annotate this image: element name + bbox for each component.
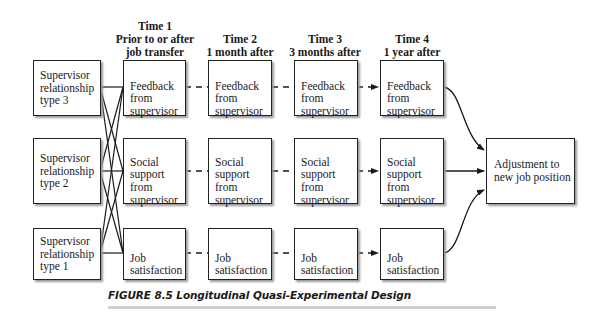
measure-box-feedback-t2: Feedback from supervisor: [208, 60, 272, 116]
header-time-3-title: Time 3: [282, 33, 368, 46]
measure-label: Job satisfaction: [130, 252, 182, 277]
measure-label: Job satisfaction: [301, 252, 353, 277]
outcome-label: Adjustment to new job position: [494, 158, 571, 183]
measure-label: Social support from supervisor: [215, 156, 263, 206]
group-box-type-1: Supervisor relationship type 1: [33, 228, 101, 280]
measure-label: Feedback from supervisor: [301, 80, 349, 117]
measure-label: Social support from supervisor: [301, 156, 349, 206]
header-time-2-title: Time 2: [200, 33, 280, 46]
measure-box-social-support-t3: Social support from supervisor: [294, 138, 358, 204]
group-label: Supervisor relationship type 1: [40, 235, 94, 273]
caption-rule: [108, 306, 496, 309]
measure-box-job-satisfaction-t3: Job satisfaction: [294, 228, 358, 280]
header-time-4: Time 4 1 year after: [372, 33, 452, 59]
measure-box-feedback-t4: Feedback from supervisor: [380, 60, 444, 116]
measure-box-job-satisfaction-t2: Job satisfaction: [208, 228, 272, 280]
measure-box-feedback-t1: Feedback from supervisor: [123, 60, 186, 116]
group-box-type-3: Supervisor relationship type 3: [33, 60, 101, 116]
header-time-3: Time 3 3 months after: [282, 33, 368, 59]
measure-box-job-satisfaction-t4: Job satisfaction: [380, 228, 444, 280]
measure-box-feedback-t3: Feedback from supervisor: [294, 60, 358, 116]
measure-label: Job satisfaction: [387, 252, 439, 277]
header-time-1: Time 1 Prior to or after job transfer: [100, 20, 210, 59]
header-time-1-desc2: job transfer: [100, 46, 210, 59]
header-time-1-desc: Prior to or after: [100, 33, 210, 46]
group-box-type-2: Supervisor relationship type 2: [33, 138, 101, 204]
measure-label: Job satisfaction: [215, 252, 267, 277]
measure-label: Social support from supervisor: [387, 156, 435, 206]
measure-box-social-support-t4: Social support from supervisor: [380, 138, 444, 204]
group-label: Supervisor relationship type 2: [40, 152, 94, 190]
measure-label: Feedback from supervisor: [215, 80, 263, 117]
header-time-4-title: Time 4: [372, 33, 452, 46]
measure-box-social-support-t1: Social support from supervisor: [123, 138, 186, 204]
header-time-4-desc: 1 year after: [372, 46, 452, 59]
header-time-2: Time 2 1 month after: [200, 33, 280, 59]
measure-label: Social support from supervisor: [130, 156, 178, 206]
figure-caption: FIGURE 8.5 Longitudinal Quasi-Experiment…: [108, 289, 411, 301]
header-time-1-title: Time 1: [100, 20, 210, 33]
outcome-box-adjustment: Adjustment to new job position: [486, 138, 575, 204]
group-label: Supervisor relationship type 3: [40, 69, 94, 107]
measure-box-job-satisfaction-t1: Job satisfaction: [123, 228, 186, 280]
measure-box-social-support-t2: Social support from supervisor: [208, 138, 272, 204]
measure-label: Feedback from supervisor: [387, 80, 435, 117]
header-time-3-desc: 3 months after: [282, 46, 368, 59]
measure-label: Feedback from supervisor: [130, 80, 178, 117]
header-time-2-desc: 1 month after: [200, 46, 280, 59]
